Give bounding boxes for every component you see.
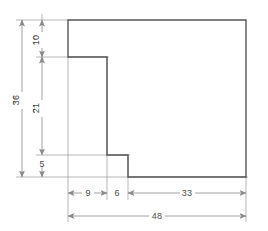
dim-label-36-front: 36 [11, 95, 21, 105]
dim-label-6: 6 [114, 188, 119, 198]
stepped-profile-drawing: 10 21 36 5 9 6 33 48 33 48 9 36 21 10 [0, 0, 268, 231]
technical-drawing-canvas: 10 21 36 5 9 6 33 48 33 48 9 36 21 10 [0, 0, 268, 231]
dim-label-9-front: 9 [85, 188, 90, 198]
dim-label-10-front: 10 [31, 35, 41, 45]
dim-label-48-front: 48 [152, 211, 162, 221]
dim-label-5: 5 [39, 159, 44, 169]
dim-label-21-front: 21 [31, 103, 41, 113]
dim-label-33-front: 33 [182, 188, 192, 198]
